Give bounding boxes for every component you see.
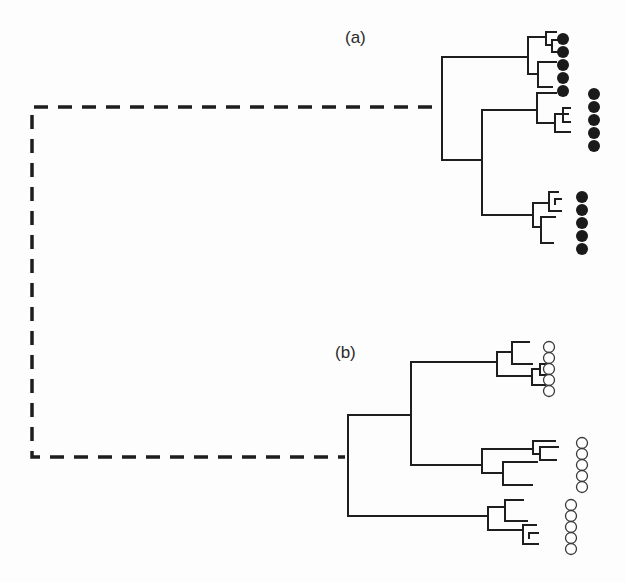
clade-b-tree <box>348 342 588 555</box>
phylogenetic-tree-figure <box>0 0 626 582</box>
filled-circle-marker-icon <box>557 72 569 84</box>
filled-circle-marker-icon <box>557 46 569 58</box>
filled-circle-marker-icon <box>557 85 569 97</box>
open-circle-marker-icon <box>544 375 555 386</box>
open-circle-marker-icon <box>577 449 588 460</box>
clade-a-tree <box>442 32 600 255</box>
filled-circle-marker-icon <box>557 33 569 45</box>
clade-label-b: (b) <box>335 343 356 363</box>
filled-circle-marker-icon <box>557 59 569 71</box>
open-circle-marker-icon <box>577 438 588 449</box>
open-circle-marker-icon <box>566 500 577 511</box>
filled-circle-marker-icon <box>588 140 600 152</box>
dashed-connector-line <box>32 107 432 457</box>
open-circle-marker-icon <box>577 482 588 493</box>
open-circle-marker-icon <box>566 522 577 533</box>
open-circle-marker-icon <box>566 511 577 522</box>
filled-circle-marker-icon <box>576 217 588 229</box>
filled-circle-marker-icon <box>576 230 588 242</box>
open-circle-marker-icon <box>577 460 588 471</box>
filled-circle-marker-icon <box>588 127 600 139</box>
dashed-connector <box>32 107 432 457</box>
filled-circle-marker-icon <box>588 88 600 100</box>
filled-circle-marker-icon <box>576 191 588 203</box>
filled-circle-marker-icon <box>576 243 588 255</box>
open-circle-marker-icon <box>566 544 577 555</box>
filled-circle-marker-icon <box>588 101 600 113</box>
open-circle-marker-icon <box>544 342 555 353</box>
clade-label-a: (a) <box>345 28 366 48</box>
open-circle-marker-icon <box>544 364 555 375</box>
open-circle-marker-icon <box>577 471 588 482</box>
open-circle-marker-icon <box>544 353 555 364</box>
open-circle-marker-icon <box>566 533 577 544</box>
open-circle-marker-icon <box>544 386 555 397</box>
filled-circle-marker-icon <box>576 204 588 216</box>
filled-circle-marker-icon <box>588 114 600 126</box>
